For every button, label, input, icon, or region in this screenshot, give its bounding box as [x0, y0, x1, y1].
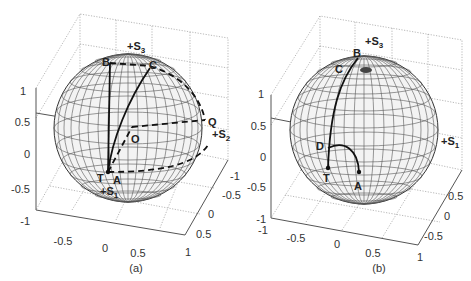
panel-a-z-ticks: 1 0.5 0 -0.5 -1 [11, 85, 30, 227]
svg-text:-0.5: -0.5 [424, 230, 443, 242]
svg-text:1: 1 [20, 85, 26, 97]
panel-a-sphere [54, 54, 202, 202]
panel-a: +S3 +S2 +S1 B C Q O T A 1 0.5 0 -0.5 -1 … [11, 14, 241, 274]
figure-canvas: +S3 +S2 +S1 B C Q O T A 1 0.5 0 -0.5 -1 … [0, 0, 471, 281]
panel-b-sphere [290, 56, 438, 204]
svg-text:0: 0 [260, 151, 266, 163]
panel-b-s1-label: +S1 [441, 135, 460, 150]
svg-text:1: 1 [185, 246, 191, 258]
svg-text:0.5: 0.5 [196, 228, 211, 240]
svg-text:-0.5: -0.5 [222, 189, 241, 201]
point-o-label: O [131, 133, 140, 145]
panel-a-caption: (a) [129, 262, 142, 274]
panel-b-z-ticks: 1 0.5 0 -0.5 -1 [247, 88, 266, 225]
point-c-label: C [149, 59, 157, 71]
panel-b-s3-label: +S3 [365, 35, 384, 50]
svg-text:0: 0 [334, 238, 340, 250]
svg-text:-0.5: -0.5 [247, 181, 266, 193]
svg-text:-0.5: -0.5 [287, 232, 306, 244]
svg-text:-0.5: -0.5 [54, 235, 73, 247]
svg-text:1: 1 [258, 88, 264, 100]
svg-text:0: 0 [444, 210, 450, 222]
panel-a-x-ticks: -0.5 0 0.5 1 [54, 235, 192, 259]
panel-b-y-ticks: 0.5 0 -0.5 [424, 190, 463, 242]
point-t-label: T [323, 172, 330, 184]
panel-a-s2-label: +S2 [212, 128, 231, 143]
svg-text:0.5: 0.5 [251, 120, 266, 132]
panel-b-x-ticks: -1 -0.5 0 0.5 1 [258, 224, 423, 263]
svg-text:0.5: 0.5 [15, 116, 30, 128]
svg-text:0: 0 [102, 242, 108, 254]
svg-text:0.5: 0.5 [365, 247, 380, 259]
svg-text:1: 1 [417, 251, 423, 263]
svg-text:0: 0 [24, 148, 30, 160]
svg-text:-1: -1 [230, 170, 240, 182]
svg-text:-1: -1 [258, 224, 268, 236]
point-t-label: T [97, 172, 104, 184]
panel-a-s3-label: +S3 [127, 40, 146, 55]
panel-b: +S3 +S1 B C D T A 1 0.5 0 -0.5 -1 -1 -0.… [247, 16, 463, 274]
svg-text:0.5: 0.5 [130, 247, 145, 259]
point-c-label: C [335, 63, 343, 75]
point-b-label: B [102, 56, 110, 68]
svg-text:-0.5: -0.5 [11, 183, 30, 195]
point-d-label: D [316, 140, 324, 152]
panel-a-x-axis [36, 210, 185, 235]
point-b-label: B [353, 47, 361, 59]
panel-b-caption: (b) [372, 262, 385, 274]
svg-text:0.5: 0.5 [448, 190, 463, 202]
point-a-label: A [113, 174, 121, 186]
point-a-label: A [354, 180, 362, 192]
point-q-label: Q [208, 116, 217, 128]
svg-text:0: 0 [208, 208, 214, 220]
svg-text:-1: -1 [20, 215, 30, 227]
